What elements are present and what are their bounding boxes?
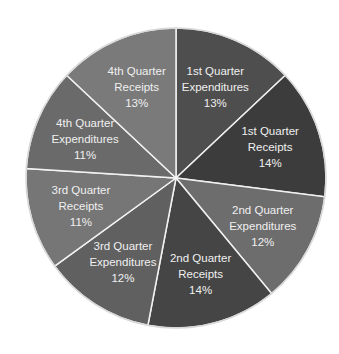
pie-chart: 1st QuarterExpenditures13%1st QuarterRec…: [0, 0, 339, 354]
